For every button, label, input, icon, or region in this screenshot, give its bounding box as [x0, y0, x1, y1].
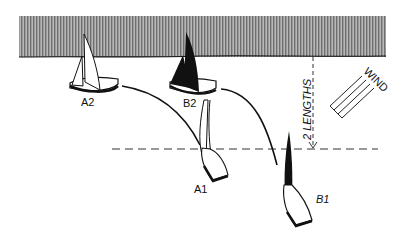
label-a1: A1	[194, 183, 207, 195]
distance-label: 2 LENGTHS	[301, 78, 313, 141]
track-b	[221, 89, 277, 165]
track-a	[122, 86, 200, 145]
boat-a1: A1	[194, 100, 228, 195]
wind-label: WIND	[362, 65, 391, 94]
label-a2: A2	[81, 96, 94, 108]
boat-b1: B1	[284, 131, 330, 226]
sailing-diagram: 2 LENGTHS WIND A2 B2 A1	[0, 0, 406, 242]
wind-indicator: WIND	[330, 65, 391, 118]
label-b2: B2	[183, 97, 196, 109]
diagram-canvas: 2 LENGTHS WIND A2 B2 A1	[0, 0, 406, 242]
shoreline	[19, 16, 386, 57]
label-b1: B1	[316, 193, 329, 205]
distance-marker: 2 LENGTHS	[301, 57, 317, 148]
